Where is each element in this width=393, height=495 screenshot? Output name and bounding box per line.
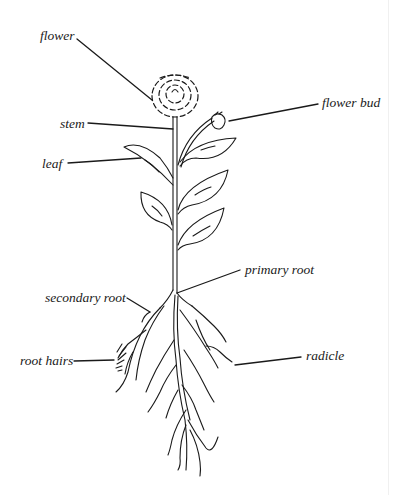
label-flower: flower [40,29,75,43]
flower-head [152,75,198,117]
label-secondary-root: secondary root [45,291,126,305]
stem [173,117,177,293]
label-flower-bud: flower bud [322,96,380,110]
label-root-hairs: root hairs [20,354,73,368]
label-primary-root: primary root [245,263,314,277]
secondary-root-leader-line [127,298,150,312]
plant-diagram: flower stem leaf flower bud primary root… [0,0,393,495]
root-hairs-leader-line [74,360,114,361]
label-radicle: radicle [306,349,344,363]
radicle-leader-line [235,357,301,365]
leaves [124,138,236,250]
flower-bud-leader-line [229,104,318,121]
leader-lines [68,39,318,365]
leaf-leader-line [68,158,141,163]
flower-leader-line [77,39,152,100]
stem-leader-line [88,123,173,129]
plant-illustration [0,0,393,495]
label-stem: stem [60,117,85,131]
root-system [116,290,232,476]
label-leaf: leaf [42,157,62,171]
primary-root-leader-line [177,270,240,293]
